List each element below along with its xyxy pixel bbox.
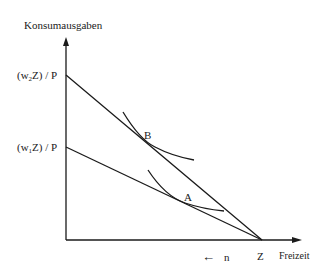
y-intercept-upper-label: (w2Z) / P	[17, 70, 57, 83]
point-a-label: A	[184, 192, 192, 203]
y-axis-label: Konsumausgaben	[24, 20, 102, 31]
budget-line-lower	[66, 147, 262, 240]
y-intercept-lower-label: (w1Z) / P	[17, 142, 57, 155]
left-arrow-icon: ←	[202, 250, 215, 263]
y-axis-arrow-icon	[63, 37, 69, 46]
budget-line-upper	[66, 75, 262, 240]
point-b-label: B	[144, 130, 151, 141]
x-intercept-label: Z	[257, 251, 264, 262]
labor-leisure-diagram: Konsumausgaben (w2Z) / P (w1Z) / P B A ←…	[0, 0, 324, 274]
x-axis-label: Freizeit	[279, 251, 310, 261]
direction-label: n	[224, 252, 230, 263]
x-axis-arrow-icon	[292, 237, 302, 243]
diagram-canvas	[0, 0, 324, 274]
